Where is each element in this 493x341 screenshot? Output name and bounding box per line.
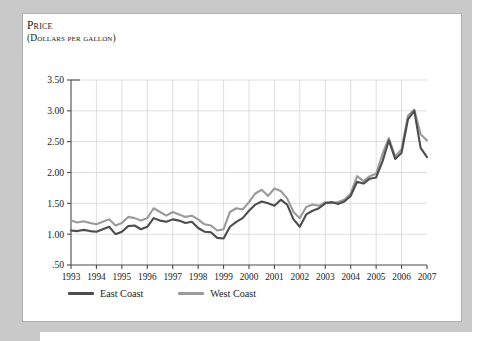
y-tick-label: 3.00 [47,105,64,116]
y-tick-label: 1.50 [47,198,64,209]
y-tick-label: 2.00 [47,167,64,178]
legend-swatch-icon [68,292,94,295]
x-tick-label: 2007 [418,272,437,282]
x-tick-label: 1994 [87,272,106,282]
x-tick-marks [71,265,427,269]
chart-legend: East CoastWest Coast [68,288,256,299]
gridlines [71,80,427,265]
x-tick-label: 1993 [62,272,81,282]
y-tick-marks [67,80,71,265]
x-tick-label: 2002 [291,272,310,282]
x-tick-labels: 1993199419951996199719981999200020012002… [62,272,437,282]
x-tick-label: 1998 [189,272,208,282]
legend-swatch-icon [178,292,204,295]
x-tick-label: 1995 [113,272,132,282]
y-tick-label: .50 [52,259,64,270]
x-tick-label: 1997 [163,272,182,282]
legend-east-coast[interactable]: East Coast [68,288,143,299]
x-tick-label: 2004 [341,272,360,282]
x-tick-label: 1996 [138,272,157,282]
x-tick-label: 2005 [367,272,386,282]
y-tick-label: 2.50 [47,136,64,147]
x-tick-label: 2001 [265,272,284,282]
legend-label: West Coast [210,288,256,299]
chart-page: Price (Dollars per gallon) .501.001.502.… [0,0,493,341]
y-tick-label: 1.00 [47,229,64,240]
y-tick-label: 3.50 [47,74,64,85]
y-tick-labels: .501.001.502.002.503.003.50 [47,74,64,270]
x-tick-label: 2003 [316,272,335,282]
x-tick-label: 1999 [214,272,233,282]
x-tick-label: 2006 [392,272,411,282]
legend-label: East Coast [100,288,143,299]
legend-west-coast[interactable]: West Coast [178,288,256,299]
x-tick-label: 2000 [240,272,259,282]
